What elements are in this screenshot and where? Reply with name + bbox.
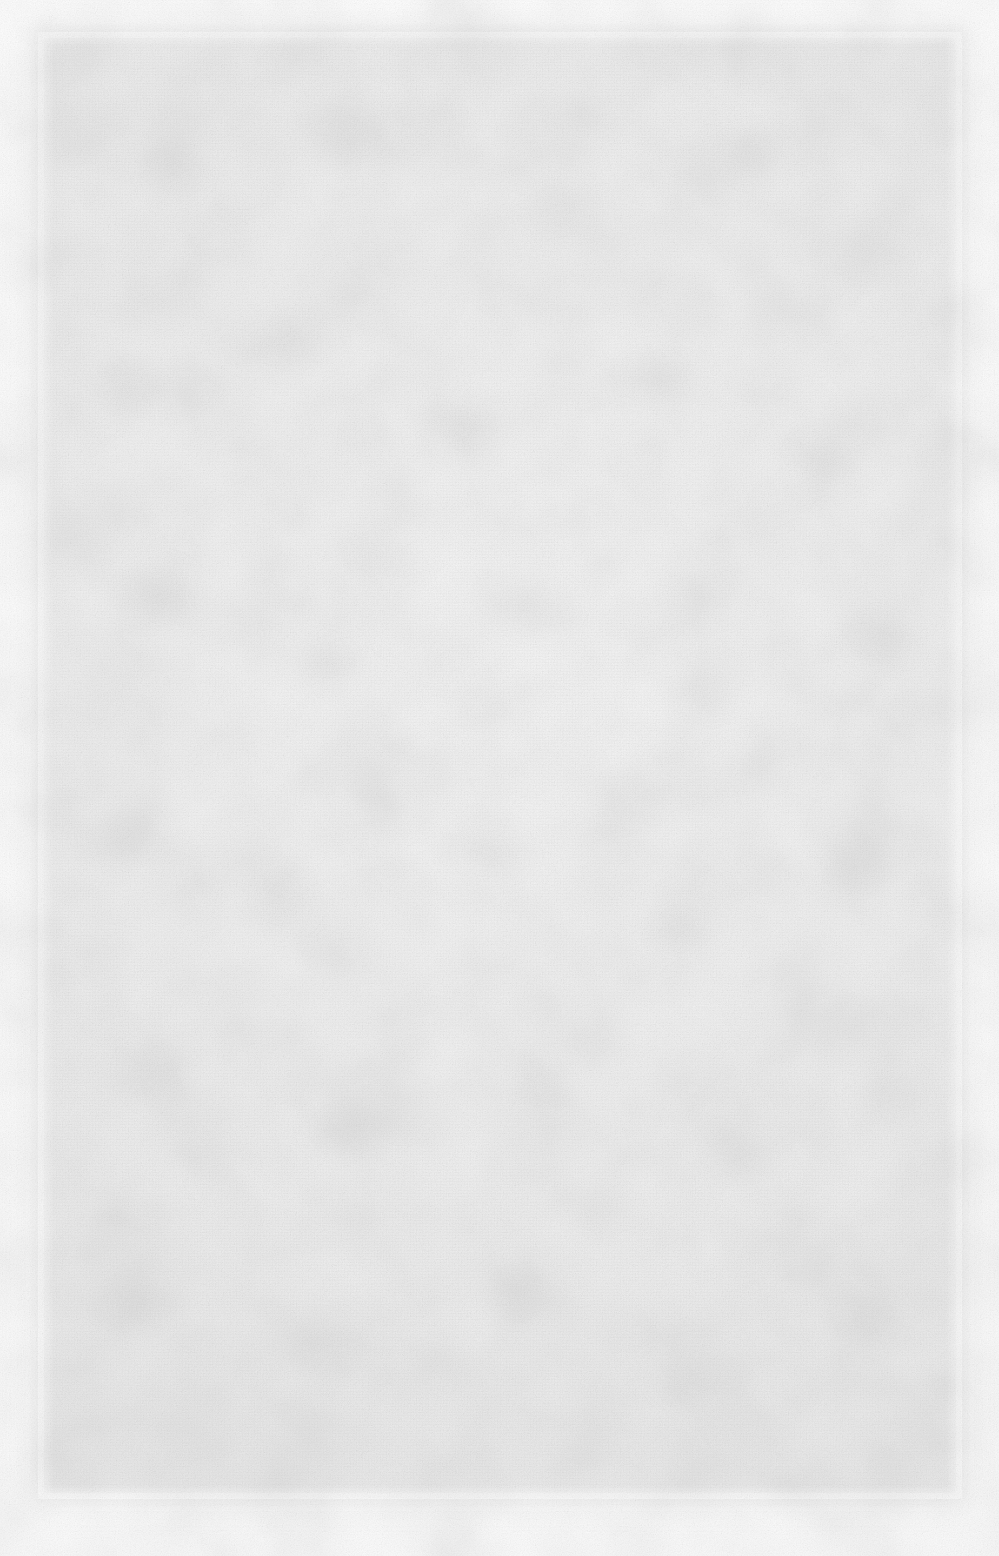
document-content-area [44,38,956,1493]
scanned-page-region [44,38,956,1493]
scanned-page-sheet [0,0,999,1556]
